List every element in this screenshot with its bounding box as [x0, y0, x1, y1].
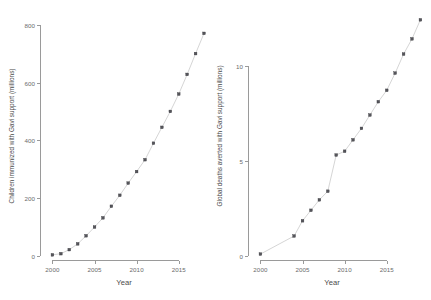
- figure-root: 02004006008002000200520102015 Year Child…: [0, 0, 431, 300]
- x-axis-tick-label: 2000: [45, 266, 59, 273]
- data-point: [369, 114, 372, 117]
- x-axis-tick-label: 2000: [253, 266, 267, 273]
- deaths-averted-panel: 05102000200520102015 Year Global deaths …: [216, 0, 431, 300]
- data-point: [177, 93, 180, 96]
- data-point: [186, 73, 189, 76]
- data-point: [360, 127, 363, 130]
- data-point: [51, 253, 54, 256]
- data-point: [335, 154, 338, 157]
- x-axis-tick: [345, 261, 346, 264]
- data-point: [102, 216, 105, 219]
- data-point: [419, 18, 422, 21]
- data-point: [135, 170, 138, 173]
- data-point: [85, 234, 88, 237]
- data-point: [259, 253, 262, 256]
- x-axis-tick-label: 2015: [172, 266, 186, 273]
- y-axis-line: [40, 25, 41, 256]
- y-axis-tick: [245, 256, 248, 257]
- data-point: [318, 198, 321, 201]
- data-point: [326, 190, 329, 193]
- data-point: [169, 110, 172, 113]
- y-axis-tick-label: 200: [12, 195, 35, 202]
- x-axis-tick: [387, 261, 388, 264]
- children-immunized-y-axis-title: Children immunized with Gavi support (mi…: [8, 69, 15, 204]
- y-axis-tick: [37, 198, 40, 199]
- x-axis-tick-label: 2015: [380, 266, 394, 273]
- children-immunized-plot-area: [44, 16, 204, 256]
- y-axis-line: [248, 66, 249, 256]
- y-axis-tick-label: 400: [12, 137, 35, 144]
- y-axis-tick-label: 5: [220, 157, 243, 164]
- data-point: [68, 248, 71, 251]
- y-axis-tick-label: 800: [12, 21, 35, 28]
- data-point: [59, 252, 62, 255]
- y-axis-tick: [245, 66, 248, 67]
- data-point: [144, 158, 147, 161]
- y-axis-tick: [37, 25, 40, 26]
- x-axis-tick-label: 2005: [87, 266, 101, 273]
- y-axis-tick-label: 0: [12, 253, 35, 260]
- y-axis-tick: [37, 140, 40, 141]
- x-axis-tick-label: 2005: [295, 266, 309, 273]
- y-axis-tick-label: 10: [220, 62, 243, 69]
- children-immunized-x-axis-title: Year: [116, 278, 131, 287]
- data-point: [76, 243, 79, 246]
- x-axis-tick: [260, 261, 261, 264]
- deaths-averted-series: [252, 16, 412, 256]
- data-point: [385, 89, 388, 92]
- x-axis-tick: [95, 261, 96, 264]
- data-point: [203, 32, 206, 35]
- data-point: [152, 142, 155, 145]
- data-point: [293, 235, 296, 238]
- data-point: [110, 205, 113, 208]
- data-point: [352, 138, 355, 141]
- data-point: [93, 226, 96, 229]
- x-axis-tick-label: 2010: [130, 266, 144, 273]
- deaths-averted-x-axis-title: Year: [324, 278, 339, 287]
- data-point: [394, 72, 397, 75]
- y-axis-tick-label: 0: [220, 253, 243, 260]
- x-axis-tick: [137, 261, 138, 264]
- deaths-averted-y-axis-title: Global deaths averted with Gavi support …: [216, 65, 223, 206]
- series-connector-line: [52, 33, 204, 254]
- data-point: [343, 150, 346, 153]
- series-connector-line: [260, 20, 420, 254]
- x-axis-tick: [52, 261, 53, 264]
- data-point: [194, 52, 197, 55]
- data-point: [127, 182, 130, 185]
- data-point: [377, 100, 380, 103]
- children-immunized-series: [44, 16, 204, 256]
- x-axis-line: [52, 260, 178, 261]
- x-axis-line: [260, 260, 386, 261]
- data-point: [301, 219, 304, 222]
- data-point: [310, 209, 313, 212]
- deaths-averted-plot-area: [252, 16, 412, 256]
- y-axis-tick-label: 600: [12, 79, 35, 86]
- data-point: [118, 194, 121, 197]
- y-axis-tick: [37, 83, 40, 84]
- data-point: [161, 126, 164, 129]
- x-axis-tick: [303, 261, 304, 264]
- children-immunized-panel: 02004006008002000200520102015 Year Child…: [0, 0, 215, 300]
- x-axis-tick: [179, 261, 180, 264]
- y-axis-tick: [245, 161, 248, 162]
- y-axis-tick: [37, 256, 40, 257]
- x-axis-tick-label: 2010: [338, 266, 352, 273]
- data-point: [402, 53, 405, 56]
- data-point: [411, 38, 414, 41]
